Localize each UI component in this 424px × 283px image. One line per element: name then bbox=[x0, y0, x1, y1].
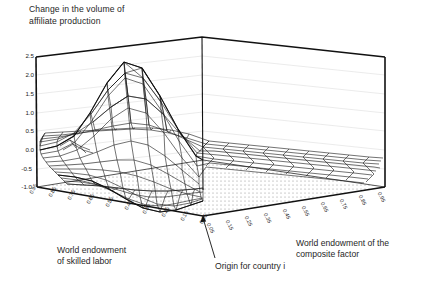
right-axis-title-line1: World endowment of the bbox=[296, 238, 389, 248]
left-axis-title: World endowmentof skilled labor bbox=[57, 245, 126, 268]
left-axis-title-line1: World endowment bbox=[57, 245, 126, 255]
z-tick-3: 1.0 bbox=[12, 109, 34, 116]
z-tick-4: 0.5 bbox=[12, 127, 34, 134]
chart-canvas: Change in the volume ofaffiliate product… bbox=[0, 0, 424, 283]
origin-annotation: Origin for country i bbox=[215, 261, 285, 272]
left-axis-title-line2: of skilled labor bbox=[57, 256, 112, 266]
z-tick-6: -0.5 bbox=[10, 165, 32, 172]
right-axis-title: World endowment of thecomposite factor bbox=[296, 238, 389, 261]
z-tick-0: 2.5 bbox=[12, 52, 34, 59]
z-tick-5: 0.0 bbox=[12, 146, 34, 153]
z-tick-2: 1.5 bbox=[12, 90, 34, 97]
right-axis-title-line2: composite factor bbox=[296, 249, 359, 259]
z-tick-1: 2.0 bbox=[12, 71, 34, 78]
